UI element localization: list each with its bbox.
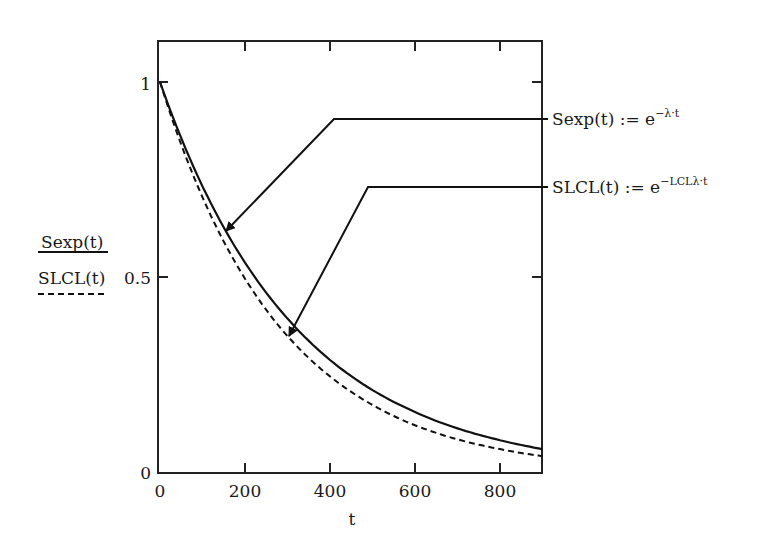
annotation-arrow-sexp — [226, 119, 548, 231]
annotation-slcl: SLCL(t) := e−LCLλ·t — [552, 175, 708, 197]
x-tick-label: 800 — [484, 481, 516, 501]
y-ticks — [158, 82, 542, 277]
chart: 0 200 400 600 800 0 0.5 1 t Sexp(t) SLCL… — [0, 0, 764, 551]
x-tick-label: 200 — [229, 481, 261, 501]
slcl-curve — [160, 82, 543, 456]
annotation-arrow-slcl — [289, 187, 548, 336]
x-ticks — [245, 41, 500, 473]
legend-slcl-label: SLCL(t) — [38, 268, 105, 288]
legend-sexp-label: Sexp(t) — [41, 232, 103, 252]
annotation-sexp: Sexp(t) := e−λ·t — [552, 107, 680, 129]
y-tick-label: 0 — [140, 463, 151, 483]
sexp-curve — [160, 82, 543, 449]
y-tick-label: 1 — [140, 74, 151, 94]
x-tick-label: 0 — [155, 481, 166, 501]
y-tick-label: 0.5 — [124, 268, 151, 288]
x-axis-label: t — [349, 509, 356, 529]
x-tick-label: 400 — [314, 481, 346, 501]
x-tick-label: 600 — [399, 481, 431, 501]
plot-frame — [158, 41, 542, 473]
